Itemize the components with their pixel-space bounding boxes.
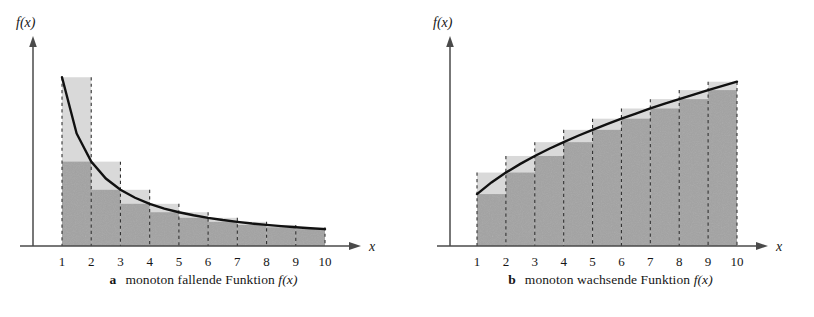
lower-sum-bar (477, 194, 506, 246)
panel-monotone-increasing: f(x) x 12345678910 bmonoton wachsende Fu… (407, 0, 814, 317)
chart-a-canvas: f(x) x 12345678910 (0, 0, 407, 280)
caption-b-fx: f(x) (694, 272, 713, 287)
lower-sum-bar (506, 173, 535, 246)
caption-b: bmonoton wachsende Funktion f(x) (407, 272, 814, 288)
x-tick-label: 4 (560, 254, 567, 269)
x-tick-label: 9 (705, 254, 712, 269)
lower-sum-bar (179, 218, 208, 246)
x-tick-label: 2 (88, 254, 95, 269)
x-tick-label: 6 (618, 254, 625, 269)
lower-sum-bar (267, 227, 296, 246)
caption-a-label: a (110, 272, 117, 287)
lower-sum-bar (535, 156, 564, 246)
x-tick-label: 10 (319, 254, 332, 269)
x-tick-label: 5 (176, 254, 183, 269)
caption-a-fx: f(x) (278, 272, 297, 287)
x-tick-label: 6 (205, 254, 212, 269)
x-axis-label-a: x (368, 239, 376, 254)
lower-sum-bar (650, 108, 679, 246)
lower-sum-bar (708, 90, 737, 246)
x-tick-label: 3 (117, 254, 124, 269)
lower-sum-bar (208, 222, 237, 246)
x-tick-label: 1 (59, 254, 66, 269)
x-axis-label-b: x (775, 239, 783, 254)
x-tick-label: 7 (234, 254, 241, 269)
chart-a-svg: f(x) x 12345678910 (0, 0, 407, 280)
lower-sum-bar (593, 130, 622, 246)
x-tick-label: 8 (676, 254, 683, 269)
chart-b-canvas: f(x) x 12345678910 (407, 0, 814, 280)
x-tick-label: 10 (731, 254, 744, 269)
lower-sum-bar (150, 212, 179, 246)
x-tick-labels-b: 12345678910 (474, 254, 744, 269)
x-tick-labels-a: 12345678910 (59, 254, 332, 269)
caption-b-text: monoton wachsende Funktion (525, 272, 690, 287)
x-tick-label: 7 (647, 254, 654, 269)
lower-sum-bar (237, 225, 266, 246)
caption-a: amonoton fallende Funktion f(x) (0, 272, 407, 288)
riemann-sum-figure: f(x) x 12345678910 amonoton fallende Fun… (0, 0, 814, 317)
caption-a-text: monoton fallende Funktion (125, 272, 274, 287)
x-tick-label: 1 (474, 254, 481, 269)
x-tick-label: 9 (293, 254, 300, 269)
lower-sum-bar (296, 229, 325, 246)
lower-sum-bar (621, 119, 650, 246)
y-axis-label-a: f(x) (16, 15, 36, 31)
x-tick-label: 4 (146, 254, 153, 269)
lower-sum-bar (91, 190, 120, 246)
lower-sum-bar (564, 142, 593, 246)
lower-sum-bar (62, 162, 91, 246)
chart-b-svg: f(x) x 12345678910 (407, 0, 814, 280)
x-tick-label: 2 (503, 254, 510, 269)
caption-b-label: b (508, 272, 516, 287)
lower-sum-bar (679, 99, 708, 246)
panel-monotone-decreasing: f(x) x 12345678910 amonoton fallende Fun… (0, 0, 407, 317)
y-axis-b (446, 36, 454, 246)
x-tick-label: 5 (589, 254, 596, 269)
lower-sum-bar (120, 204, 149, 246)
y-axis-a (29, 36, 37, 246)
x-tick-label: 3 (532, 254, 539, 269)
y-axis-label-b: f(x) (433, 15, 453, 31)
x-tick-label: 8 (263, 254, 270, 269)
